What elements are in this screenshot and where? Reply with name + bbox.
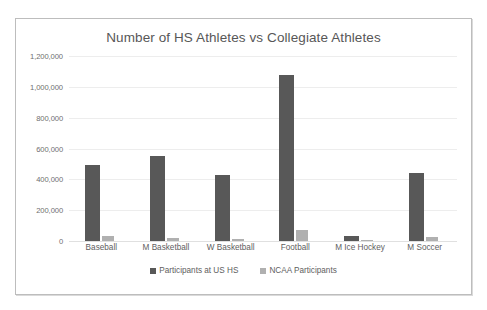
legend-item[interactable]: Participants at US HS [150,266,238,275]
legend-swatch-icon [150,268,156,274]
x-axis: BaseballM BasketballW BasketballFootball… [69,243,457,259]
y-axis-tick-label: 0 [59,237,63,246]
legend-label: Participants at US HS [159,266,238,275]
chart-title: Number of HS Athletes vs Collegiate Athl… [16,30,471,45]
x-axis-tick-label: Football [281,243,310,252]
y-axis-tick-label: 200,000 [36,206,63,215]
x-axis-tick-label: M Basketball [143,243,190,252]
bar-group [69,56,134,241]
bar-ncaa[interactable] [296,230,308,241]
bar-ncaa[interactable] [361,240,373,242]
plot-area [69,56,457,241]
bar-hs[interactable] [344,236,359,241]
chart-container: Number of HS Athletes vs Collegiate Athl… [15,18,472,295]
bar-group [134,56,199,241]
y-axis-tick-label: 600,000 [36,144,63,153]
x-axis-tick-label: M Soccer [407,243,442,252]
bars-layer [69,56,457,241]
y-axis: 1,200,0001,000,000800,000600,000400,0002… [16,56,66,241]
x-axis-tick-label: Baseball [86,243,117,252]
bar-hs[interactable] [279,75,294,242]
bar-group [198,56,263,241]
bar-hs[interactable] [85,165,100,241]
x-axis-tick-label: W Basketball [207,243,255,252]
y-axis-tick-label: 400,000 [36,175,63,184]
y-axis-tick-label: 800,000 [36,113,63,122]
bar-group [263,56,328,241]
chart-legend: Participants at US HSNCAA Participants [16,266,471,275]
bar-ncaa[interactable] [167,238,179,241]
y-axis-tick-label: 1,000,000 [30,82,63,91]
bar-group [328,56,393,241]
legend-swatch-icon [260,268,266,274]
bar-hs[interactable] [409,173,424,241]
y-axis-tick-label: 1,200,000 [30,52,63,61]
legend-item[interactable]: NCAA Participants [260,266,336,275]
legend-label: NCAA Participants [269,266,336,275]
bar-ncaa[interactable] [102,236,114,241]
gridline [69,241,457,242]
bar-hs[interactable] [215,175,230,241]
x-axis-tick-label: M Ice Hockey [335,243,385,252]
bar-ncaa[interactable] [232,239,244,241]
bar-hs[interactable] [150,156,165,241]
bar-ncaa[interactable] [426,237,438,241]
bar-group [392,56,457,241]
